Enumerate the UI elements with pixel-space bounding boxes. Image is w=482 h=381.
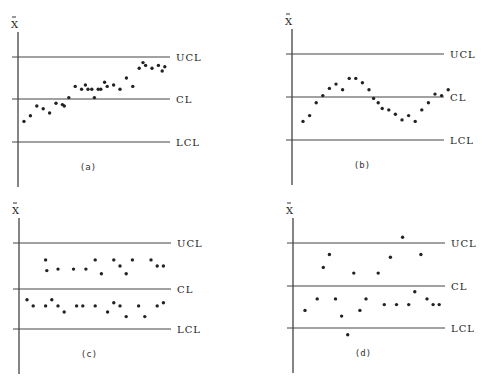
cl-label: CL [451, 281, 467, 292]
data-point [125, 315, 128, 318]
data-point [157, 64, 160, 67]
data-point [74, 85, 77, 88]
data-point [394, 113, 397, 116]
cl-label: CL [176, 94, 192, 105]
data-point [94, 258, 97, 261]
y-axis-label: X [286, 205, 294, 216]
data-point [328, 87, 331, 90]
data-point [303, 309, 306, 312]
y-axis-label: X [12, 205, 20, 216]
data-point [162, 264, 165, 267]
data-point [93, 96, 96, 99]
data-point [62, 310, 65, 313]
chart-panel-a: XUCLCLLCL(a) [0, 0, 241, 190]
chart-a-svg: XUCLCLLCL(a) [0, 0, 241, 190]
data-point [106, 85, 109, 88]
chart-b-svg: XUCLCLLCL(b) [241, 0, 482, 190]
data-point [150, 67, 153, 70]
data-point [50, 298, 53, 301]
data-point [427, 101, 430, 104]
chart-panel-b: XUCLCLLCL(b) [241, 0, 482, 190]
data-point [25, 298, 28, 301]
data-point [315, 101, 318, 104]
data-point [334, 82, 337, 85]
y-axis-label: X [11, 19, 19, 30]
ucl-label: UCL [176, 52, 202, 63]
data-point [56, 267, 59, 270]
data-point [346, 333, 349, 336]
chart-panel-d: XUCLCLLCL(d) [241, 190, 482, 380]
data-point [138, 67, 141, 70]
data-point [381, 107, 384, 110]
data-point [56, 304, 59, 307]
data-point [112, 258, 115, 261]
data-point [100, 272, 103, 275]
data-point [162, 301, 165, 304]
data-point [45, 269, 48, 272]
data-point [22, 120, 25, 123]
data-point [354, 77, 357, 80]
ucl-label: UCL [451, 238, 477, 249]
data-point [438, 303, 441, 306]
data-point [163, 65, 166, 68]
data-point [75, 304, 78, 307]
data-point [125, 272, 128, 275]
data-point [144, 64, 147, 67]
data-point [420, 108, 423, 111]
data-point [67, 96, 70, 99]
data-point [447, 88, 450, 91]
data-point [419, 253, 422, 256]
lcl-label: LCL [176, 137, 200, 148]
data-point [395, 303, 398, 306]
y-axis-label: X [285, 16, 293, 27]
panel-caption: (a) [80, 162, 96, 172]
data-point [112, 301, 115, 304]
data-point [377, 271, 380, 274]
data-point [99, 88, 102, 91]
panel-caption: (c) [81, 349, 97, 359]
data-point [334, 297, 337, 300]
data-point [81, 304, 84, 307]
data-point [440, 94, 443, 97]
data-point [352, 271, 355, 274]
data-point [372, 97, 375, 100]
data-point [149, 258, 152, 261]
data-point [63, 104, 66, 107]
lcl-label: LCL [177, 324, 201, 335]
panel-caption: (d) [355, 348, 371, 358]
data-point [364, 297, 367, 300]
data-point [316, 297, 319, 300]
data-point [431, 303, 434, 306]
data-point [90, 88, 93, 91]
data-point [103, 81, 106, 84]
data-point [161, 69, 164, 72]
chart-d-svg: XUCLCLLCL(d) [241, 190, 482, 381]
data-point [358, 309, 361, 312]
data-point [348, 77, 351, 80]
data-point [84, 83, 87, 86]
data-point [433, 92, 436, 95]
data-point [48, 111, 51, 114]
data-point [118, 88, 121, 91]
data-point [137, 304, 140, 307]
data-point [341, 88, 344, 91]
data-point [401, 236, 404, 239]
panel-caption: (b) [354, 160, 370, 170]
data-point [32, 304, 35, 307]
ucl-label: UCL [177, 238, 203, 249]
data-point [328, 253, 331, 256]
chart-c-svg: XUCLCLLCL(c) [0, 190, 241, 381]
data-point [84, 267, 87, 270]
data-point [413, 290, 416, 293]
data-point [131, 85, 134, 88]
data-point [367, 88, 370, 91]
data-point [340, 314, 343, 317]
data-point [389, 256, 392, 259]
data-point [54, 102, 57, 105]
data-point [131, 258, 134, 261]
data-point [383, 303, 386, 306]
data-point [377, 101, 380, 104]
data-point [42, 107, 45, 110]
data-point [414, 120, 417, 123]
data-point [387, 108, 390, 111]
